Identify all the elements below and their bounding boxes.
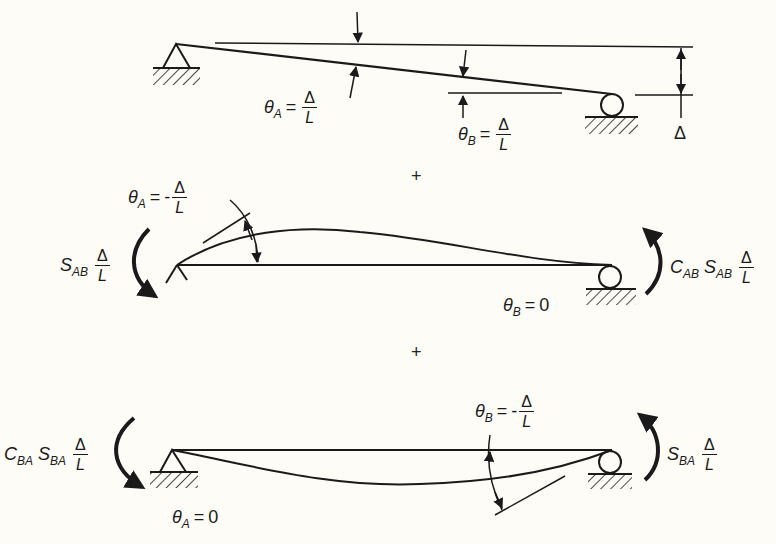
numerator: Δ — [702, 437, 717, 455]
stiffness-symbol: S — [704, 257, 716, 277]
rotated-beam — [176, 44, 612, 94]
subscript: AB — [716, 267, 732, 281]
moment-a-label: SAB ΔL — [60, 248, 110, 284]
theta-symbol: θ — [503, 295, 513, 315]
reference-line — [215, 43, 693, 47]
numerator: Δ — [95, 248, 110, 266]
equals: = — [497, 401, 508, 421]
fraction: ΔL — [73, 437, 88, 473]
panel-fixed-end-a — [134, 200, 661, 305]
numerator: Δ — [302, 90, 317, 108]
panel-fixed-end-b — [116, 415, 658, 515]
denominator: L — [302, 108, 317, 126]
moment-b-label: CAB SAB ΔL — [670, 250, 754, 286]
theta-symbol: θ — [128, 187, 138, 207]
moment-a-label: CBA SBA ΔL — [4, 437, 88, 473]
denominator: L — [519, 412, 534, 430]
subscript: BA — [50, 454, 66, 468]
theta-a-zero-label: θA=0 — [172, 508, 218, 526]
moment-arrow-a — [116, 418, 142, 487]
minus-sign: - — [164, 187, 170, 207]
theta-b-label: θB=-ΔL — [475, 394, 534, 430]
stiffness-symbol: S — [667, 444, 679, 464]
equals: = — [480, 124, 491, 144]
moment-arrow-b — [640, 415, 658, 480]
panel-rigid-rotation — [153, 12, 693, 134]
subscript: B — [485, 411, 493, 425]
numerator: Δ — [172, 180, 187, 198]
denominator: L — [73, 455, 88, 473]
fraction: ΔL — [302, 90, 317, 126]
plus-operator-2: + — [411, 342, 422, 363]
fraction: ΔL — [496, 117, 511, 153]
value: 0 — [539, 295, 549, 315]
theta-symbol: θ — [475, 401, 485, 421]
subscript: B — [468, 134, 476, 148]
fraction: ΔL — [95, 248, 110, 284]
theta-symbol: θ — [264, 97, 274, 117]
equals: = — [525, 295, 536, 315]
stiffness-symbol: S — [38, 444, 50, 464]
denominator: L — [702, 455, 717, 473]
numerator: Δ — [739, 250, 754, 268]
subscript: B — [513, 305, 521, 319]
subscript: BA — [679, 454, 695, 468]
moment-b-label: SBA ΔL — [667, 437, 717, 473]
subscript: AB — [683, 267, 699, 281]
denominator: L — [172, 198, 187, 216]
fraction: ΔL — [739, 250, 754, 286]
subscript: BA — [17, 454, 33, 468]
value: 0 — [208, 507, 218, 527]
equals: = — [286, 97, 297, 117]
moment-arrow-a — [134, 229, 155, 296]
subscript: A — [138, 197, 146, 211]
deflected-beam — [177, 229, 612, 265]
minus-sign: - — [511, 401, 517, 421]
fraction: ΔL — [519, 394, 534, 430]
numerator: Δ — [519, 394, 534, 412]
denominator: L — [95, 266, 110, 284]
theta-symbol: θ — [172, 507, 182, 527]
settlement-delta-label: Δ — [674, 124, 686, 142]
theta-a-label: θA=-ΔL — [128, 180, 187, 216]
stiffness-symbol: S — [60, 255, 72, 275]
numerator: Δ — [73, 437, 88, 455]
moment-arrow-b — [645, 230, 661, 294]
theta-b-zero-label: θB=0 — [503, 296, 549, 314]
carryover-symbol: C — [4, 444, 17, 464]
beam-diagram-canvas — [0, 0, 776, 544]
subscript: A — [274, 107, 282, 121]
denominator: L — [739, 268, 754, 286]
pin-support-a — [153, 44, 200, 85]
equals: = — [150, 187, 161, 207]
fraction: ΔL — [172, 180, 187, 216]
denominator: L — [496, 135, 511, 153]
fraction: ΔL — [702, 437, 717, 473]
subscript: AB — [72, 265, 88, 279]
equals: = — [194, 507, 205, 527]
subscript: A — [182, 517, 190, 531]
deflected-beam — [172, 450, 612, 484]
roller-support-b — [585, 94, 638, 134]
numerator: Δ — [496, 117, 511, 135]
carryover-symbol: C — [670, 257, 683, 277]
theta-a-label: θA=ΔL — [264, 90, 317, 126]
theta-b-label: θB=ΔL — [458, 117, 511, 153]
plus-operator-1: + — [411, 166, 422, 187]
theta-symbol: θ — [458, 124, 468, 144]
